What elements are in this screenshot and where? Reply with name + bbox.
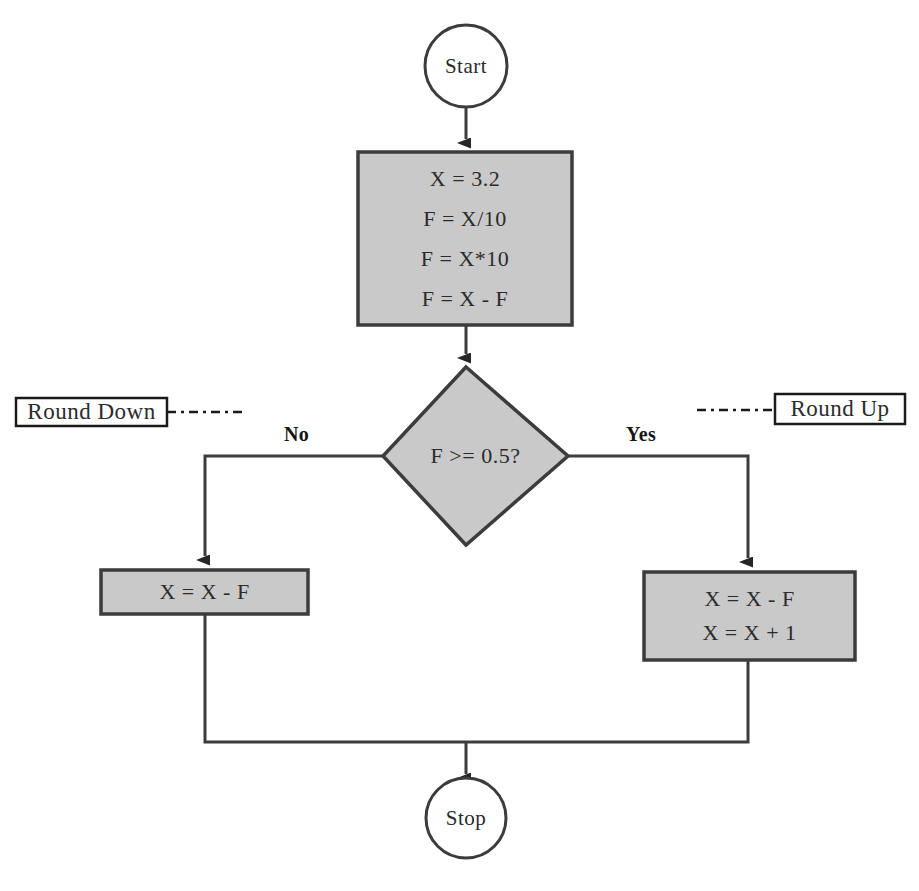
branch-label-yes: Yes — [626, 423, 656, 446]
branch-label-no: No — [284, 423, 309, 446]
node-init-process — [358, 152, 572, 325]
annotation-round-down-box — [16, 398, 167, 426]
node-round-up-process — [644, 572, 855, 660]
connector-decision-no — [205, 456, 383, 556]
node-start — [425, 25, 507, 107]
connector-decision-yes — [568, 456, 748, 558]
node-decision — [383, 367, 568, 545]
node-round-down-process — [101, 570, 308, 614]
annotation-round-up-box — [775, 394, 905, 424]
connector-right-merge — [466, 660, 748, 742]
flowchart-graphics — [0, 0, 919, 891]
node-stop — [426, 778, 506, 858]
flowchart-canvas: Start X = 3.2 F = X/10 F = X*10 F = X - … — [0, 0, 919, 891]
connector-left-merge — [205, 614, 466, 742]
